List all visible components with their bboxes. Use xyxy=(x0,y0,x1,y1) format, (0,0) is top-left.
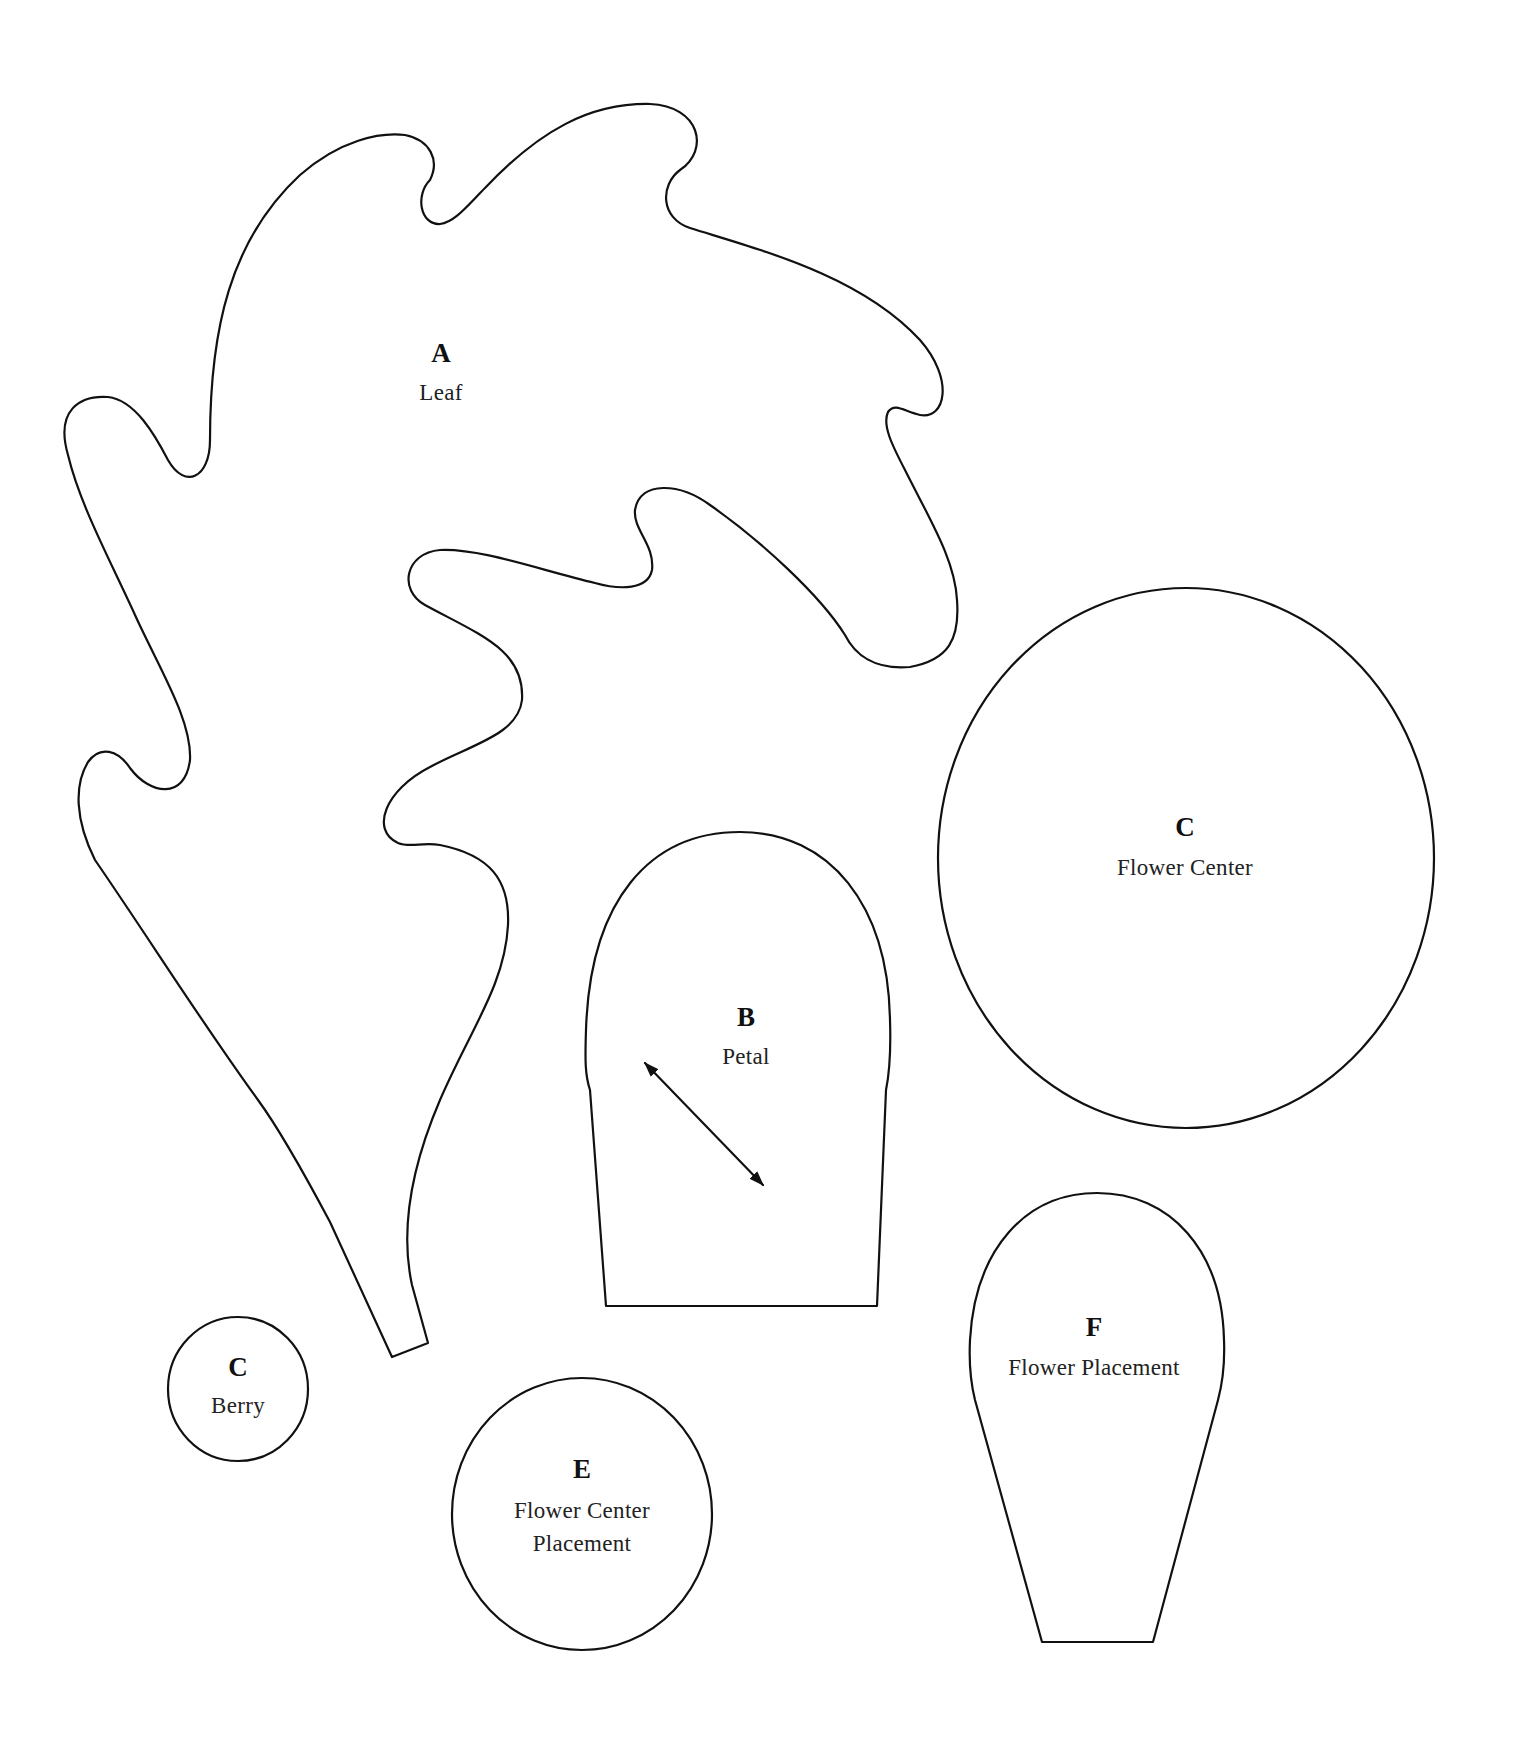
leaf-letter: A xyxy=(431,338,451,368)
flower-center-placement-piece: E Flower Center Placement xyxy=(452,1378,712,1650)
flower-placement-letter: F xyxy=(1086,1312,1103,1342)
flower-center-piece: C Flower Center xyxy=(938,588,1434,1128)
flower-placement-outline xyxy=(970,1193,1225,1642)
leaf-piece: A Leaf xyxy=(64,104,957,1357)
berry-letter: C xyxy=(228,1352,248,1382)
berry-outline xyxy=(168,1317,308,1461)
flower-center-letter: C xyxy=(1175,812,1195,842)
berry-piece: C Berry xyxy=(168,1317,308,1461)
leaf-name: Leaf xyxy=(419,380,462,405)
flower-center-placement-name-line2: Placement xyxy=(533,1531,632,1556)
petal-piece: B Petal xyxy=(585,832,890,1306)
flower-placement-name: Flower Placement xyxy=(1008,1355,1180,1380)
flower-center-placement-name-line1: Flower Center xyxy=(514,1498,650,1523)
berry-name: Berry xyxy=(211,1393,265,1418)
petal-name: Petal xyxy=(722,1044,770,1069)
petal-outline xyxy=(585,832,890,1306)
pattern-sheet: A Leaf B Petal C Flower Center C Berry E… xyxy=(0,0,1516,1745)
flower-placement-piece: F Flower Placement xyxy=(970,1193,1225,1642)
petal-letter: B xyxy=(737,1002,755,1032)
grain-arrow-icon xyxy=(645,1063,763,1185)
flower-center-name: Flower Center xyxy=(1117,855,1253,880)
flower-center-placement-letter: E xyxy=(573,1454,591,1484)
leaf-outline xyxy=(64,104,957,1357)
